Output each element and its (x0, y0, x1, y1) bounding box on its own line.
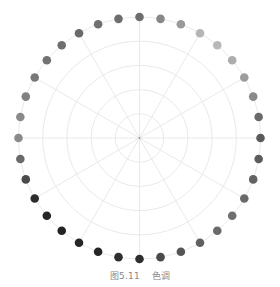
figure-title: 色调 (152, 271, 170, 281)
hue-point (22, 175, 31, 184)
grid-spoke (35, 78, 140, 139)
hue-point (256, 134, 265, 143)
polar-hue-chart (0, 0, 280, 270)
hue-point (22, 92, 31, 101)
grid-spoke (140, 138, 245, 199)
center-point (139, 137, 141, 139)
grid-spoke (79, 33, 140, 138)
grid-spoke (79, 138, 140, 243)
hue-point (57, 41, 66, 50)
hue-point (75, 238, 84, 247)
hue-point (254, 113, 263, 122)
hue-point (196, 29, 205, 38)
hue-point (94, 247, 103, 256)
grid-spoke (140, 33, 201, 138)
figure-number: 图5.11 (110, 271, 140, 281)
hue-point (196, 238, 205, 247)
figure-caption: 图5.11色调 (0, 269, 280, 282)
hue-point (114, 15, 123, 24)
hue-point (114, 253, 123, 262)
hue-point (57, 226, 66, 235)
hue-point (30, 73, 39, 82)
polar-grid (19, 17, 261, 259)
hue-point (135, 13, 144, 22)
hue-point (177, 247, 186, 256)
hue-point (75, 29, 84, 38)
hue-point (135, 255, 144, 264)
hue-point (254, 155, 263, 164)
hue-point (156, 15, 165, 24)
hue-point (43, 56, 52, 65)
hue-point (16, 113, 25, 122)
hue-point (249, 175, 258, 184)
hue-point (228, 56, 237, 65)
hue-point (14, 134, 23, 143)
hue-point (16, 155, 25, 164)
hue-point (156, 253, 165, 262)
grid-spoke (140, 138, 201, 243)
hue-point (30, 194, 39, 203)
hue-point (240, 194, 249, 203)
grid-spoke (35, 138, 140, 199)
hue-point (213, 41, 222, 50)
hue-point (228, 211, 237, 220)
hue-point (240, 73, 249, 82)
hue-point (43, 211, 52, 220)
hue-point (94, 20, 103, 29)
hue-point (213, 226, 222, 235)
hue-point (177, 20, 186, 29)
grid-spoke (140, 78, 245, 139)
hue-point (249, 92, 258, 101)
